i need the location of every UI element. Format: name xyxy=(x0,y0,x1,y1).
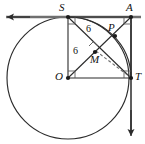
length-label-lower: 6 xyxy=(73,46,78,56)
point-dot-P xyxy=(113,34,117,38)
point-label-M: M xyxy=(90,54,99,65)
geometry-figure: S A O T P M 6 6 xyxy=(0,0,145,144)
point-label-O: O xyxy=(55,71,63,82)
point-label-A: A xyxy=(126,2,133,13)
point-dot-O xyxy=(66,76,70,80)
point-dot-S xyxy=(66,15,70,19)
point-dot-A xyxy=(129,15,133,19)
point-label-T: T xyxy=(135,71,141,82)
geometry-canvas xyxy=(0,0,145,144)
point-dot-T xyxy=(129,76,133,80)
point-label-P: P xyxy=(108,22,115,33)
length-label-upper: 6 xyxy=(86,24,91,34)
point-label-S: S xyxy=(59,2,65,13)
